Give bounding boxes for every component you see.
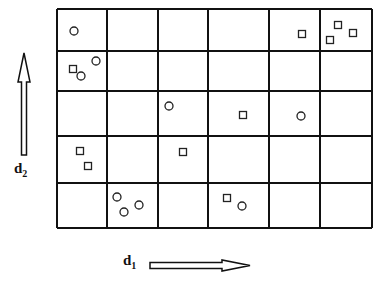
square-marker-icon <box>180 149 187 156</box>
circle-marker-icon <box>297 112 305 120</box>
square-marker-icon <box>85 163 92 170</box>
square-marker-icon <box>224 195 231 202</box>
circle-marker-icon <box>77 72 85 80</box>
square-marker-icon <box>299 31 306 38</box>
axis-label-d2-sub: 2 <box>22 168 27 179</box>
grid-diagram <box>0 0 384 288</box>
square-marker-icon <box>77 148 84 155</box>
horizontal-arrow-icon <box>150 260 250 271</box>
circle-marker-icon <box>70 27 78 35</box>
circle-marker-icon <box>165 102 173 110</box>
square-marker-icon <box>240 112 247 119</box>
axis-label-d1-sub: 1 <box>131 260 136 271</box>
circle-marker-icon <box>238 202 246 210</box>
vertical-arrow-icon <box>18 53 30 155</box>
square-marker-icon <box>70 66 77 73</box>
circle-marker-icon <box>113 193 121 201</box>
grid-lines <box>57 9 372 228</box>
square-marker-icon <box>350 30 357 37</box>
circle-marker-icon <box>120 208 128 216</box>
square-marker-icon <box>327 37 334 44</box>
axis-label-d2: d2 <box>14 160 27 179</box>
axis-label-d1: d1 <box>123 252 136 271</box>
circle-marker-icon <box>135 201 143 209</box>
circle-marker-icon <box>92 57 100 65</box>
square-marker-icon <box>335 22 342 29</box>
